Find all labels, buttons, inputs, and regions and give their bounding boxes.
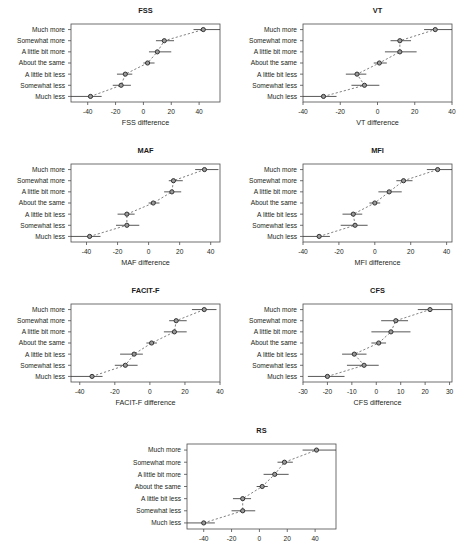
data-marker — [241, 497, 245, 501]
data-point-group — [371, 330, 410, 334]
data-point-group — [303, 448, 336, 452]
data-marker — [352, 352, 356, 356]
y-tick-label: Somewhat less — [252, 82, 297, 89]
data-marker — [377, 61, 381, 65]
data-marker — [373, 201, 377, 205]
data-point-group — [257, 484, 268, 488]
x-axis-title: MFI difference — [355, 258, 401, 267]
data-marker — [321, 94, 325, 98]
data-point-group — [156, 39, 174, 43]
data-point-group — [71, 374, 103, 378]
y-tick-label: Somewhat more — [249, 177, 297, 184]
data-marker — [132, 352, 136, 356]
figure-container: FSSMuch moreSomewhat moreA little bit mo… — [0, 0, 464, 557]
x-tick-label: -20 — [335, 108, 345, 115]
panel-title: VT — [373, 6, 383, 15]
x-tick-label: 20 — [181, 388, 189, 395]
y-tick-label: About the same — [135, 483, 182, 490]
y-tick-label: Somewhat less — [136, 507, 181, 514]
y-tick-label: Much more — [32, 166, 65, 173]
data-point-group — [381, 319, 408, 323]
data-point-group — [351, 83, 379, 87]
x-tick-label: 0 — [376, 108, 380, 115]
data-marker — [314, 448, 318, 452]
y-tick-label: A little bit more — [22, 48, 66, 55]
data-point-group — [342, 212, 362, 216]
y-tick-label: Somewhat less — [20, 362, 65, 369]
data-point-group — [264, 472, 289, 476]
panel-cfs: CFSMuch moreSomewhat moreA little bit mo… — [232, 280, 464, 420]
panel-vt: VTMuch moreSomewhat moreA little bit mor… — [232, 0, 464, 140]
panel-title: FACIT-F — [132, 286, 160, 295]
y-tick-label: About the same — [19, 59, 66, 66]
x-axis-title: FSS difference — [122, 118, 169, 127]
data-marker — [151, 201, 155, 205]
y-tick-label: Somewhat less — [252, 222, 297, 229]
panel-title: FSS — [138, 6, 152, 15]
y-tick-label: Much less — [267, 93, 297, 100]
y-tick-label: A little bit less — [257, 71, 298, 78]
x-tick-label: -20 — [111, 108, 121, 115]
data-point-group — [71, 94, 102, 98]
data-marker — [162, 39, 166, 43]
data-point-group — [342, 352, 366, 356]
panel-mfi: MFIMuch moreSomewhat moreA little bit mo… — [232, 140, 464, 280]
data-marker — [145, 61, 149, 65]
y-tick-label: Much more — [32, 306, 65, 313]
panel-maf: MAFMuch moreSomewhat moreA little bit mo… — [0, 140, 232, 280]
data-marker — [125, 212, 129, 216]
y-tick-label: Somewhat more — [17, 37, 65, 44]
y-tick-label: Somewhat more — [249, 317, 297, 324]
x-tick-label: -20 — [323, 388, 333, 395]
panel-facit-f: FACIT-FMuch moreSomewhat moreA little bi… — [0, 280, 232, 420]
data-marker — [88, 94, 92, 98]
y-tick-label: A little bit more — [254, 48, 298, 55]
x-tick-label: 20 — [284, 535, 292, 542]
y-tick-label: About the same — [251, 59, 298, 66]
x-tick-label: 40 — [195, 108, 203, 115]
y-tick-label: Much more — [148, 446, 181, 453]
data-point-group — [169, 179, 183, 183]
y-tick-label: A little bit more — [138, 471, 182, 478]
x-tick-label: 40 — [311, 535, 319, 542]
y-tick-label: Much more — [264, 306, 297, 313]
data-marker — [389, 330, 393, 334]
data-point-group — [143, 61, 154, 65]
y-tick-label: Much more — [264, 26, 297, 33]
x-tick-label: 40 — [448, 108, 456, 115]
panel-title: MFI — [371, 146, 384, 155]
y-tick-label: Much less — [35, 93, 65, 100]
x-tick-label: -20 — [334, 248, 344, 255]
data-point-group — [71, 234, 100, 238]
y-tick-label: A little bit more — [22, 188, 66, 195]
x-tick-label: -40 — [83, 108, 93, 115]
y-tick-label: A little bit less — [25, 351, 66, 358]
data-marker — [362, 363, 366, 367]
data-point-group — [195, 167, 218, 171]
data-point-group — [418, 307, 452, 311]
data-point-group — [149, 50, 171, 54]
data-marker — [90, 374, 94, 378]
x-tick-label: 20 — [421, 388, 429, 395]
y-tick-label: About the same — [19, 199, 66, 206]
x-tick-label: 30 — [446, 388, 454, 395]
data-marker — [436, 167, 440, 171]
data-point-group — [115, 363, 138, 367]
data-marker — [125, 223, 129, 227]
x-tick-label: -40 — [75, 388, 85, 395]
data-point-group — [117, 72, 132, 76]
y-tick-label: A little bit less — [257, 351, 298, 358]
x-tick-label: -40 — [199, 535, 209, 542]
x-axis-title: VT difference — [356, 118, 399, 127]
data-marker — [88, 234, 92, 238]
data-point-group — [396, 179, 412, 183]
data-marker — [202, 307, 206, 311]
data-point-group — [192, 307, 217, 311]
data-marker — [353, 223, 357, 227]
data-point-group — [303, 94, 337, 98]
panel-fss: FSSMuch moreSomewhat moreA little bit mo… — [0, 0, 232, 140]
y-tick-label: A little bit more — [254, 328, 298, 335]
y-tick-label: Somewhat more — [249, 37, 297, 44]
y-tick-label: Somewhat more — [133, 459, 181, 466]
panel-rs: RSMuch moreSomewhat moreA little bit mor… — [116, 420, 348, 557]
